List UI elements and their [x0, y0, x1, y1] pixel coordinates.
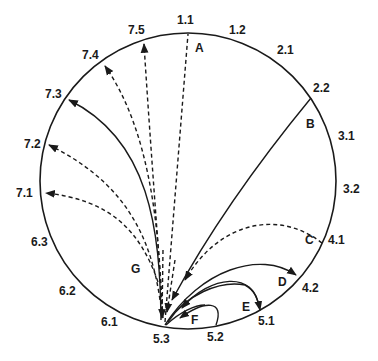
rim-label-5-1: 5.1 [258, 314, 275, 328]
path-label-c: C [305, 233, 314, 247]
rim-label-5-3: 5.3 [153, 332, 170, 346]
rim-label-7-3: 7.3 [45, 87, 62, 101]
rim-label-7-5: 7.5 [128, 23, 145, 37]
path-g-hub-arrow [162, 250, 163, 318]
path-label-e: E [242, 300, 250, 314]
rim-label-7-2: 7.2 [24, 137, 41, 151]
rim-label-7-1: 7.1 [16, 186, 33, 200]
path-label-d: D [278, 275, 287, 289]
rim-label-3-2: 3.2 [343, 182, 360, 196]
rim-label-4-2: 4.2 [302, 281, 319, 295]
rim-label-1-2: 1.2 [229, 23, 246, 37]
path-c [185, 224, 322, 280]
rim-circle [40, 33, 336, 329]
path-label-f: F [191, 313, 198, 327]
rim-label-7-4: 7.4 [82, 48, 99, 62]
rim-label-5-2: 5.2 [207, 330, 224, 344]
rim-label-2-1: 2.1 [277, 43, 294, 57]
path-labels: A B C D E F G [131, 41, 315, 327]
path-g-7-3 [69, 100, 161, 320]
rim-label-4-1: 4.1 [328, 233, 345, 247]
path-e-connector [168, 284, 245, 322]
path-label-a: A [195, 41, 204, 55]
path-b [172, 98, 311, 300]
rim-label-6-1: 6.1 [101, 315, 118, 329]
path-f [180, 305, 218, 325]
path-g-7-2 [49, 145, 160, 300]
path-label-g: G [131, 262, 140, 276]
rim-label-2-2: 2.2 [313, 81, 330, 95]
rim-label-6-2: 6.2 [59, 284, 76, 298]
rim-label-3-1: 3.1 [338, 129, 355, 143]
rim-label-1-1: 1.1 [177, 13, 194, 27]
path-d [165, 264, 296, 325]
path-g-7-1 [46, 193, 158, 282]
path-label-b: B [306, 117, 315, 131]
rim-label-6-3: 6.3 [31, 235, 48, 249]
transition-diagram: 1.1 1.2 2.1 2.2 3.1 3.2 4.1 4.2 5.1 5.2 … [0, 0, 378, 361]
